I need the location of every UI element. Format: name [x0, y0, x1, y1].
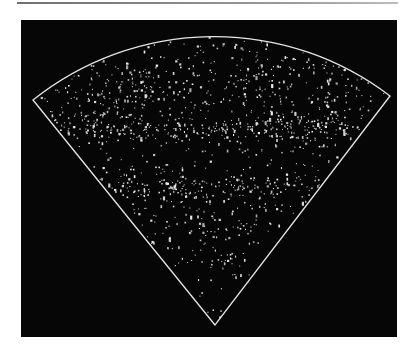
- page: [0, 0, 418, 354]
- wedge-outline: [33, 37, 390, 325]
- top-divider-rule: [17, 2, 398, 4]
- galaxy-points: [41, 37, 385, 318]
- wedge-plot: [21, 20, 397, 337]
- redshift-wedge-figure: [21, 20, 397, 337]
